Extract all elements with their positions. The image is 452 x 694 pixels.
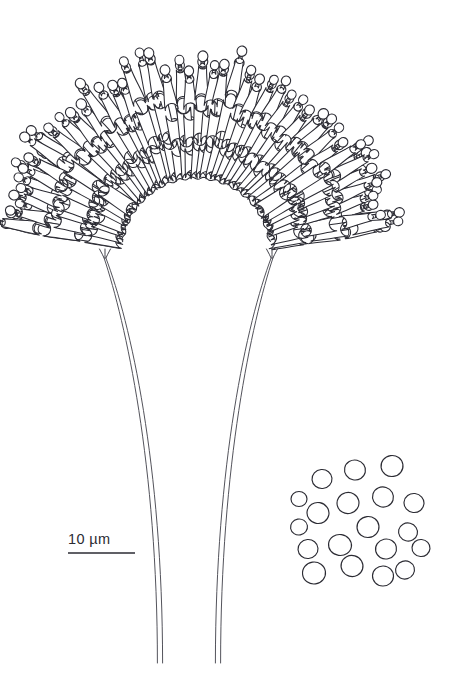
terminal-conidium (198, 51, 208, 62)
conidium-spore (372, 566, 394, 587)
stipe-right-wall-left (215, 258, 271, 663)
conidium-spore (356, 515, 380, 538)
conidium-spore (397, 521, 420, 543)
conidium-spore (291, 492, 307, 507)
figure-canvas: 10 µm (0, 0, 452, 694)
free-conidia-cluster (289, 454, 430, 586)
conidium-spore (327, 533, 353, 557)
terminal-conidium (393, 216, 403, 226)
stipe-right-root (273, 249, 278, 258)
conidium-spore (297, 539, 318, 559)
stipe-right-root (267, 249, 272, 258)
conidiophore-illustration (0, 0, 452, 694)
conidium-spore (403, 493, 425, 514)
terminal-conidium (175, 55, 185, 65)
terminal-conidium (210, 60, 219, 70)
stipe-left-wall-left (104, 258, 157, 663)
stipe-left-wall-right (106, 258, 163, 663)
stipe-left-root (106, 249, 111, 258)
stipe-left-root (100, 249, 105, 258)
scale-bar-label: 10 µm (68, 531, 111, 547)
conidium-spore (370, 484, 396, 510)
conidium-spore (343, 458, 368, 482)
terminal-conidium (393, 207, 405, 218)
conidium-spore (339, 553, 366, 579)
conidium-spore (335, 490, 361, 516)
conidium-spore (380, 454, 405, 478)
terminal-conidium (184, 66, 194, 77)
conidium-spore (411, 539, 430, 557)
terminal-conidium (236, 45, 248, 57)
conidium-spore (374, 537, 399, 561)
conidium-spore (305, 501, 330, 526)
conidium-spore (393, 559, 416, 582)
stipe-group (100, 249, 278, 663)
conidium-spore (311, 469, 333, 490)
stipe-right-wall-right (221, 258, 273, 663)
conidium-spore (301, 561, 327, 586)
conidium-spore (289, 518, 309, 537)
conidiophore-head (0, 45, 405, 250)
